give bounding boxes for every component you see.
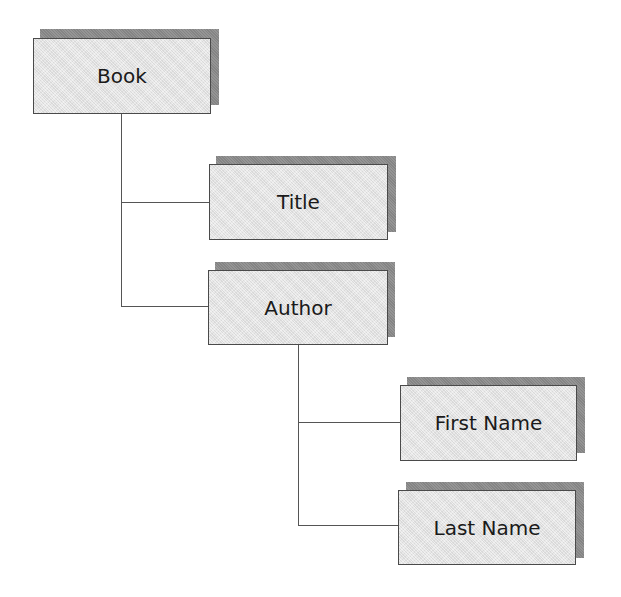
node-box-author: Author [208, 270, 388, 345]
connector-book-author [121, 306, 208, 307]
connector-author-first-name [298, 422, 400, 423]
connector-book-trunk [121, 113, 122, 307]
node-label: Book [97, 64, 147, 88]
node-label: Title [277, 190, 320, 214]
diagram-canvas: Book Title Author First Name Last Name [0, 0, 621, 597]
node-label: Last Name [433, 516, 540, 540]
node-label: Author [264, 296, 331, 320]
node-label: First Name [435, 411, 542, 435]
connector-book-title [121, 202, 209, 203]
node-box-last-name: Last Name [398, 490, 576, 565]
node-box-first-name: First Name [400, 385, 577, 461]
connector-author-trunk [298, 344, 299, 526]
connector-author-last-name [298, 525, 398, 526]
node-box-title: Title [209, 164, 388, 240]
node-box-book: Book [33, 38, 211, 114]
